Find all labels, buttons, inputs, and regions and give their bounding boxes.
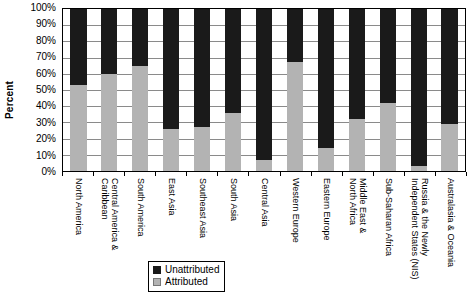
x-axis-category-label: Eastern Europe bbox=[321, 178, 331, 241]
x-axis-label-slot: North America bbox=[62, 178, 93, 298]
bar-slot bbox=[279, 9, 310, 171]
bar-slot bbox=[125, 9, 156, 171]
bar-segment-unattributed bbox=[411, 9, 427, 166]
x-axis-category-label-line: Central Asia bbox=[259, 178, 269, 227]
stacked-bar bbox=[101, 9, 117, 171]
x-axis-category-label-line: North America bbox=[73, 178, 83, 235]
x-axis-label-slot: Western Europe bbox=[280, 178, 311, 298]
bar-slot bbox=[187, 9, 218, 171]
x-axis-category-label: Sub-Saharan Africa bbox=[384, 178, 394, 256]
plot-area bbox=[62, 8, 466, 172]
x-axis-category-label-line: Western Europe bbox=[290, 178, 300, 243]
x-axis-category-label: Southeast Asia bbox=[197, 178, 207, 238]
stacked-bar bbox=[349, 9, 365, 171]
bar-segment-unattributed bbox=[194, 9, 210, 127]
bar-segment-attributed bbox=[349, 119, 365, 171]
legend-label-attributed: Attributed bbox=[165, 277, 208, 287]
bar-segment-attributed bbox=[163, 129, 179, 171]
bar-slot bbox=[94, 9, 125, 171]
x-axis-category-label: Central America &Caribbean bbox=[99, 178, 118, 251]
y-axis-tick-label: 10% bbox=[36, 151, 56, 161]
x-axis-tick-mark bbox=[404, 172, 405, 176]
x-axis-category-label: South America bbox=[135, 178, 145, 237]
bar-segment-unattributed bbox=[225, 9, 241, 113]
bar-segment-unattributed bbox=[132, 9, 148, 66]
bar-slot bbox=[403, 9, 434, 171]
x-axis-label-slot: Australasia & Oceania bbox=[435, 178, 466, 298]
bar-segment-attributed bbox=[256, 160, 272, 171]
bar-slot bbox=[63, 9, 94, 171]
x-axis-label-slot: Central America &Caribbean bbox=[93, 178, 124, 298]
x-axis-category-label: Central Asia bbox=[259, 178, 269, 227]
stacked-bar bbox=[225, 9, 241, 171]
x-axis-category-labels: North AmericaCentral America &CaribbeanS… bbox=[62, 178, 466, 298]
legend-swatch-unattributed-icon bbox=[153, 266, 161, 274]
stacked-bar bbox=[70, 9, 86, 171]
stacked-bar bbox=[287, 9, 303, 171]
x-axis-category-label-line: Sub-Saharan Africa bbox=[384, 178, 394, 256]
y-axis-tick-label: 60% bbox=[36, 69, 56, 79]
y-axis-tick-label: 30% bbox=[36, 118, 56, 128]
x-axis-category-label: Middle East &North Africa bbox=[348, 178, 367, 234]
legend-swatch-attributed-icon bbox=[153, 278, 161, 286]
bar-segment-unattributed bbox=[380, 9, 396, 103]
stacked-bar bbox=[318, 9, 334, 171]
y-axis-tick-label: 50% bbox=[36, 85, 56, 95]
bar-slot bbox=[249, 9, 280, 171]
bar-series-container bbox=[63, 9, 465, 171]
x-axis-category-label: Western Europe bbox=[290, 178, 300, 243]
x-axis-tick-mark bbox=[124, 172, 125, 176]
bar-slot bbox=[156, 9, 187, 171]
stacked-bar bbox=[132, 9, 148, 171]
x-axis-tick-marks bbox=[62, 172, 466, 176]
y-axis-tick-labels: 100%90%80%70%60%50%40%30%20%10%0% bbox=[16, 0, 60, 180]
x-axis-tick-mark bbox=[342, 172, 343, 176]
x-axis-category-label-line: South America bbox=[135, 178, 145, 237]
x-axis-tick-mark bbox=[280, 172, 281, 176]
legend-item-attributed: Attributed bbox=[153, 276, 219, 288]
x-axis-tick-mark bbox=[466, 172, 467, 176]
y-axis-title: Percent bbox=[2, 60, 16, 140]
x-axis-category-label-line: Caribbean bbox=[99, 178, 109, 251]
x-axis-label-slot: Central Asia bbox=[248, 178, 279, 298]
legend-label-unattributed: Unattributed bbox=[165, 265, 219, 275]
x-axis-tick-mark bbox=[93, 172, 94, 176]
x-axis-tick-mark bbox=[311, 172, 312, 176]
bar-slot bbox=[310, 9, 341, 171]
y-axis-tick-label: 40% bbox=[36, 101, 56, 111]
x-axis-label-slot: Russia & the NewlyIndependent States (NI… bbox=[404, 178, 435, 298]
x-axis-category-label-line: North Africa bbox=[348, 178, 358, 234]
bar-segment-unattributed bbox=[256, 9, 272, 160]
bar-segment-unattributed bbox=[101, 9, 117, 74]
bar-segment-attributed bbox=[194, 127, 210, 171]
bar-segment-attributed bbox=[318, 148, 334, 171]
bar-segment-attributed bbox=[132, 66, 148, 171]
x-axis-category-label-line: Australasia & Oceania bbox=[446, 178, 456, 267]
bar-slot bbox=[434, 9, 465, 171]
x-axis-category-label-line: Independent States (NIS) bbox=[410, 178, 420, 280]
x-axis-category-label-line: Russia & the Newly bbox=[419, 178, 429, 280]
x-axis-category-label: Australasia & Oceania bbox=[446, 178, 456, 267]
y-axis-tick-label: 20% bbox=[36, 134, 56, 144]
x-axis-category-label-line: South Asia bbox=[228, 178, 238, 221]
legend-item-unattributed: Unattributed bbox=[153, 264, 219, 276]
bar-segment-attributed bbox=[441, 124, 457, 171]
x-axis-label-slot: Middle East &North Africa bbox=[342, 178, 373, 298]
bar-slot bbox=[372, 9, 403, 171]
y-axis-tick-label: 90% bbox=[36, 19, 56, 29]
bar-segment-attributed bbox=[70, 85, 86, 171]
bar-segment-unattributed bbox=[70, 9, 86, 85]
stacked-bar bbox=[256, 9, 272, 171]
x-axis-category-label-line: Eastern Europe bbox=[321, 178, 331, 241]
stacked-bar bbox=[380, 9, 396, 171]
x-axis-tick-mark bbox=[62, 172, 63, 176]
x-axis-category-label-line: East Asia bbox=[166, 178, 176, 216]
chart-legend: Unattributed Attributed bbox=[148, 261, 225, 292]
bar-segment-attributed bbox=[101, 74, 117, 171]
bar-segment-attributed bbox=[225, 113, 241, 171]
x-axis-category-label: East Asia bbox=[166, 178, 176, 216]
bar-segment-unattributed bbox=[349, 9, 365, 119]
x-axis-tick-mark bbox=[186, 172, 187, 176]
x-axis-tick-mark bbox=[248, 172, 249, 176]
y-axis-tick-label: 70% bbox=[36, 52, 56, 62]
